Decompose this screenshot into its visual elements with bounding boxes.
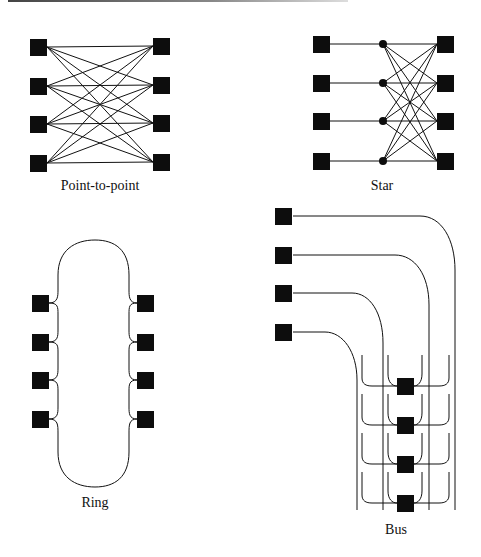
ring-right-node (137, 295, 154, 312)
ring-left-node (32, 295, 49, 312)
p2p-right-node (153, 154, 170, 171)
point-to-point-links (47, 46, 153, 163)
topology-diagram (0, 0, 481, 557)
ring-left-node (32, 372, 49, 389)
star-right-node (437, 113, 454, 130)
p2p-left-node (30, 155, 47, 172)
bus-left-node (275, 285, 292, 302)
bus-node (397, 378, 414, 395)
ring-links (49, 240, 137, 487)
star-links (330, 44, 437, 161)
label-point-to-point: Point-to-point (61, 178, 140, 194)
star-hub-node (379, 40, 387, 48)
star-right-node (437, 36, 454, 53)
ring-right-node (137, 411, 154, 428)
label-star: Star (371, 178, 394, 194)
star-left-node (313, 75, 330, 92)
ring-left-node (32, 411, 49, 428)
bus-node (397, 456, 414, 473)
bus-links (293, 216, 455, 510)
bus-node (397, 417, 414, 434)
label-bus: Bus (385, 522, 407, 538)
star-hub-node (379, 157, 387, 165)
nodes (30, 36, 454, 512)
ring-left-node (32, 334, 49, 351)
star-right-node (437, 153, 454, 170)
ring-right-node (137, 372, 154, 389)
ring-right-node (137, 334, 154, 351)
bus-left-node (275, 247, 292, 264)
bus-left-node (275, 324, 292, 341)
p2p-left-node (30, 39, 47, 56)
p2p-right-node (153, 77, 170, 94)
p2p-left-node (30, 116, 47, 133)
star-left-node (313, 153, 330, 170)
star-left-node (313, 113, 330, 130)
star-right-node (437, 75, 454, 92)
p2p-right-node (153, 115, 170, 132)
star-hub-node (379, 117, 387, 125)
star-hub-node (379, 79, 387, 87)
star-left-node (313, 36, 330, 53)
bus-left-node (275, 208, 292, 225)
label-ring: Ring (81, 495, 108, 511)
bus-node (397, 495, 414, 512)
p2p-right-node (153, 38, 170, 55)
p2p-left-node (30, 78, 47, 95)
